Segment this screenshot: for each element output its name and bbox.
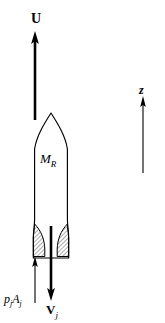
label-pressure-force: pjAj: [4, 293, 22, 308]
label-area-symbol: A: [12, 292, 19, 306]
label-jet-velocity-symbol: V: [46, 302, 55, 317]
pressure-force-arrow: [32, 257, 38, 304]
rocket-velocity-arrow: [31, 31, 39, 120]
label-jet-velocity: Vj: [46, 303, 58, 320]
label-rocket-mass-symbol: M: [40, 151, 51, 166]
label-z-axis: z: [139, 84, 144, 96]
label-rocket-mass-subscript: R: [51, 159, 57, 169]
rocket-diagram-svg: [0, 0, 165, 323]
label-rocket-mass: MR: [40, 152, 56, 169]
label-jet-velocity-subscript: j: [55, 310, 58, 320]
z-axis-arrow: [140, 96, 146, 173]
rocket-diagram-figure: U MR Vj pjAj z: [0, 0, 165, 323]
label-rocket-velocity-u: U: [31, 12, 41, 26]
label-area-subscript: j: [20, 299, 22, 308]
